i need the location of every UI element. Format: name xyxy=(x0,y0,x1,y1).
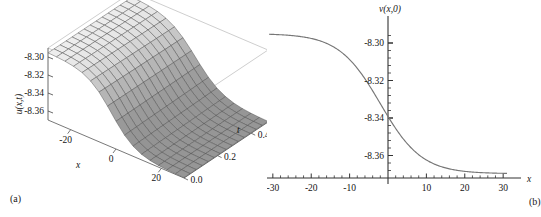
surface-plot-svg: -8.36-8.34-8.32-8.30-200200.00.20.4xtu(x… xyxy=(0,0,267,217)
svg-text:-8.32: -8.32 xyxy=(364,76,384,86)
svg-text:-30: -30 xyxy=(267,183,279,193)
svg-text:0.2: 0.2 xyxy=(224,152,236,162)
svg-text:u(x,t): u(x,t) xyxy=(14,94,25,114)
surface-mesh xyxy=(48,0,267,178)
svg-text:-8.32: -8.32 xyxy=(24,70,44,80)
svg-text:-8.30: -8.30 xyxy=(364,38,384,48)
svg-text:0.0: 0.0 xyxy=(191,175,203,185)
svg-text:-8.36: -8.36 xyxy=(364,151,384,161)
svg-text:-8.34: -8.34 xyxy=(364,113,384,123)
line-plot-svg: -30-20-10102030-8.36-8.34-8.32-8.30xv(x,… xyxy=(267,0,535,217)
svg-text:x: x xyxy=(526,174,532,184)
svg-text:0.4: 0.4 xyxy=(258,130,267,140)
svg-text:20: 20 xyxy=(152,173,162,183)
svg-text:10: 10 xyxy=(422,183,432,193)
panel-a-surface-plot: -8.36-8.34-8.32-8.30-200200.00.20.4xtu(x… xyxy=(0,0,267,217)
svg-text:20: 20 xyxy=(460,183,470,193)
svg-text:-20: -20 xyxy=(305,183,318,193)
svg-text:t: t xyxy=(237,125,240,135)
svg-text:30: 30 xyxy=(498,183,508,193)
line-plot-axis-labels: -30-20-10102030-8.36-8.34-8.32-8.30xv(x,… xyxy=(267,4,532,193)
svg-text:0: 0 xyxy=(109,154,114,164)
panel-b-line-plot: -30-20-10102030-8.36-8.34-8.32-8.30xv(x,… xyxy=(267,0,535,217)
svg-text:-8.34: -8.34 xyxy=(24,88,44,98)
panel-a-caption: (a) xyxy=(10,193,21,204)
line-plot-axes xyxy=(267,16,521,184)
svg-text:-8.36: -8.36 xyxy=(24,106,44,116)
svg-text:-8.30: -8.30 xyxy=(24,52,44,62)
svg-text:x: x xyxy=(75,160,81,170)
svg-text:v(x,0): v(x,0) xyxy=(379,4,401,15)
panel-b-caption: (b) xyxy=(529,196,541,207)
svg-text:-20: -20 xyxy=(59,135,72,145)
svg-text:-10: -10 xyxy=(343,183,356,193)
